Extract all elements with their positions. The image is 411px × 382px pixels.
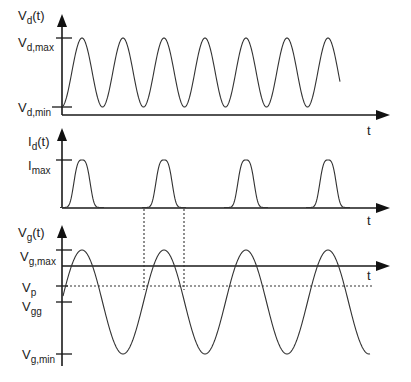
vd-max-label: Vd,max xyxy=(18,35,54,53)
vg-min-label: Vg,min xyxy=(22,347,55,365)
vd-waveform xyxy=(63,38,340,107)
panel-gate-voltage xyxy=(56,225,390,366)
id-y-arrow-icon xyxy=(57,128,67,141)
panel-drain-current xyxy=(56,128,390,213)
vg-x-arrow-icon xyxy=(376,261,390,271)
id-x-arrow-icon xyxy=(376,203,390,213)
vd-axis-label: Vd(t) xyxy=(18,8,45,26)
id-axis-label: Id(t) xyxy=(28,134,49,152)
id-time-label: t xyxy=(367,213,371,228)
vg-max-label: Vg,max xyxy=(20,249,56,267)
vgg-label: Vgg xyxy=(22,299,42,317)
vg-time-label: t xyxy=(367,268,371,283)
id-waveform xyxy=(60,160,350,208)
vd-y-arrow-icon xyxy=(57,14,67,27)
waveform-diagram: Vd(t) Vd,max Vd,min t Id(t) Imax t Vg(t)… xyxy=(0,0,411,382)
vd-time-label: t xyxy=(367,123,371,138)
panel-drain-voltage xyxy=(52,14,390,120)
vg-y-arrow-icon xyxy=(57,225,67,238)
vp-label: Vp xyxy=(22,280,37,298)
vd-x-arrow-icon xyxy=(376,110,390,120)
vg-axis-label: Vg(t) xyxy=(18,225,45,243)
imax-label: Imax xyxy=(28,158,51,176)
vd-min-label: Vd,min xyxy=(18,100,51,118)
